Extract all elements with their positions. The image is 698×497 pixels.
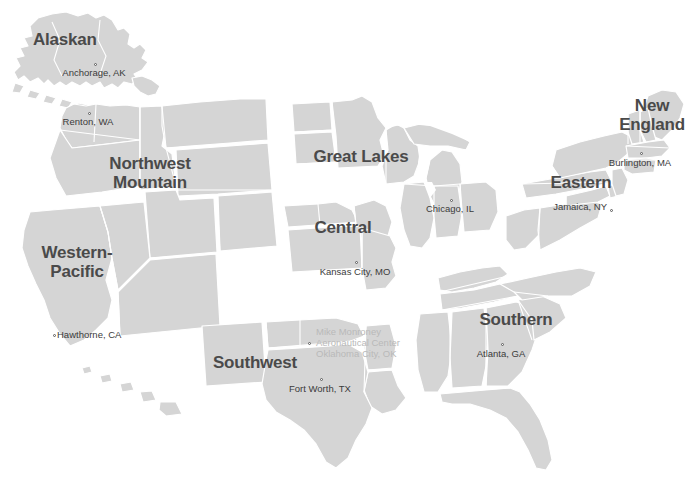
region-label-southwest[interactable]: Southwest: [196, 353, 314, 372]
city-dot-icon-chicago: [450, 199, 453, 202]
city-label-mike-monroney: Mike Monroney Aeronautical Center Oklaho…: [316, 326, 420, 359]
city-dot-icon-burlington: [640, 152, 643, 155]
city-label-hawthorne: Hawthorne, CA: [57, 329, 149, 340]
city-label-anchorage: Anchorage, AK: [44, 67, 144, 78]
city-label-atlanta: Atlanta, GA: [457, 348, 545, 359]
city-label-renton: Renton, WA: [40, 116, 136, 127]
city-label-kansas-city: Kansas City, MO: [305, 266, 405, 277]
region-label-central[interactable]: Central: [300, 218, 386, 237]
city-label-burlington: Burlington, MA: [593, 157, 687, 168]
region-label-western-pacific[interactable]: Western- Pacific: [25, 243, 129, 281]
city-label-jamaica: Jamaica, NY: [545, 201, 607, 212]
city-label-fort-worth: Fort Worth, TX: [272, 383, 368, 394]
region-label-alaskan[interactable]: Alaskan: [33, 30, 137, 49]
city-dot-icon-kansas-city: [355, 261, 358, 264]
city-dot-icon-jamaica: [610, 209, 613, 212]
city-label-chicago: Chicago, IL: [404, 203, 496, 214]
region-label-eastern[interactable]: Eastern: [538, 173, 624, 192]
faa-regions-map: AlaskanNorthwest MountainWestern- Pacifi…: [0, 0, 698, 497]
city-dot-icon-hawthorne: [53, 334, 56, 337]
region-label-southern[interactable]: Southern: [466, 310, 566, 329]
city-dot-icon-fort-worth: [320, 378, 323, 381]
city-dot-icon-anchorage: [94, 63, 97, 66]
city-dot-icon-mike-monroney: [308, 342, 311, 345]
region-label-northwest-mountain[interactable]: Northwest Mountain: [85, 154, 215, 192]
city-dot-icon-atlanta: [501, 343, 504, 346]
map-label-layer: AlaskanNorthwest MountainWestern- Pacifi…: [0, 0, 698, 497]
city-dot-icon-renton: [88, 112, 91, 115]
region-label-great-lakes[interactable]: Great Lakes: [296, 147, 426, 166]
region-label-new-england[interactable]: New England: [606, 96, 698, 134]
